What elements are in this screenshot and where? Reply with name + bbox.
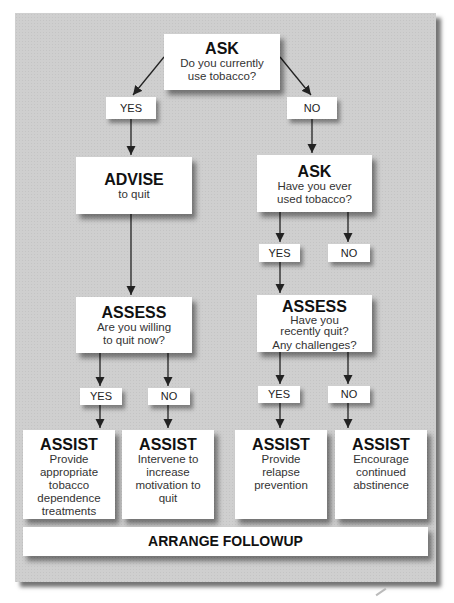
node-title: ASSIST [126,436,210,453]
yes-label-recent: YES [258,386,300,403]
assist-treatment-node: ASSIST Provide appropriate tobacco depen… [23,430,115,519]
no-label-recent: NO [328,386,370,403]
node-title: ASSESS [257,298,372,315]
yes-label-current: YES [106,97,156,119]
arrange-followup-node: ARRANGE FOLLOWUP [23,527,428,556]
node-text: Have you ever used tobacco? [257,180,372,206]
node-title: ASSIST [343,436,419,453]
ask-ever-used-node: ASK Have you ever used tobacco? [257,155,372,212]
node-text: Encourage continued abstinence [343,453,419,492]
node-title: ASK [257,163,372,180]
yes-label-ever: YES [259,244,300,262]
assess-willing-node: ASSESS Are you willing to quit now? [76,297,192,353]
node-title: ADVISE [76,171,192,188]
node-text: Provide relapse prevention [243,453,319,492]
node-text: Provide appropriate tobacco dependence t… [27,453,111,518]
assist-motivation-node: ASSIST Intervene to increase motivation … [122,430,214,519]
node-text: Are you willing to quit now? [76,321,192,347]
assist-abstinence-node: ASSIST Encourage continued abstinence [335,430,427,519]
advise-node: ADVISE to quit [76,157,192,214]
node-text-line1: Have you recently quit? [257,315,372,337]
node-title: ASSIST [27,436,111,453]
assess-recent-quit-node: ASSESS Have you recently quit? Any chall… [257,295,372,352]
node-title: ASSIST [243,436,319,453]
no-label-current: NO [287,97,337,119]
no-label-ever: NO [328,244,370,262]
node-text: Intervene to increase motivation to quit [126,453,210,505]
node-title: ASSESS [76,304,192,321]
yes-label-willing: YES [80,388,122,405]
node-text-line2: Any challenges? [257,339,372,352]
ask-current-use-node: ASK Do you currently use tobacco? [164,34,280,90]
node-text: to quit [76,188,192,201]
node-title: ASK [164,40,280,57]
no-label-willing: NO [148,388,190,405]
assist-relapse-node: ASSIST Provide relapse prevention [235,430,327,519]
node-text: Do you currently use tobacco? [164,57,280,83]
